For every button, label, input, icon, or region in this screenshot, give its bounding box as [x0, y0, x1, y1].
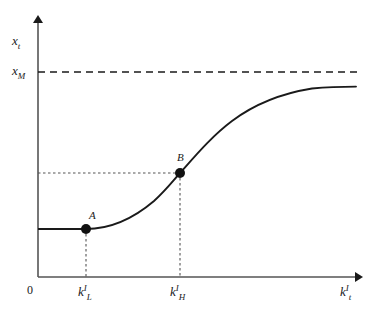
x-tick-label-k-low: kIL [78, 284, 92, 302]
y-axis-label-subscript: t [18, 41, 21, 51]
point-a-label: A [89, 210, 96, 221]
x-tick-label-k-high: kIH [170, 284, 185, 302]
y-tick-label-x-max: xM [12, 64, 25, 81]
diagram-canvas: xt xM 0 kIL kIH kIt A B [0, 0, 380, 319]
origin-label: 0 [27, 284, 33, 296]
x-tick-k-low-subscript: L [87, 292, 92, 302]
x-axis-label: kIt [340, 284, 351, 302]
point-b-marker [175, 168, 185, 178]
transition-curve [86, 87, 356, 229]
point-a-marker [81, 224, 91, 234]
point-b-label: B [177, 152, 184, 163]
y-tick-subscript: M [18, 71, 26, 81]
diagram-svg [0, 0, 380, 319]
x-axis-label-subscript: t [349, 292, 352, 302]
x-tick-k-high-subscript: H [179, 292, 186, 302]
y-axis-label: xt [12, 34, 20, 51]
